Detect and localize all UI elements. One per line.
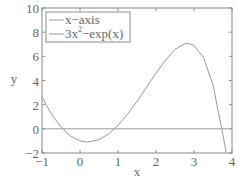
clipped-caption — [0, 182, 240, 188]
legend-label-x-axis: x−axis — [65, 12, 100, 27]
y-tick-label: −2 — [25, 146, 39, 161]
y-tick-label: 2 — [33, 98, 40, 113]
legend-label-function: 3x2−exp(x) — [65, 25, 123, 41]
x-tick-label: 4 — [229, 154, 236, 169]
y-tick-label: 0 — [33, 122, 40, 137]
y-tick-label: 10 — [26, 1, 39, 16]
y-tick-label: 4 — [33, 74, 40, 89]
legend: x−axis 3x2−exp(x) — [46, 12, 130, 42]
x-tick-label: 2 — [153, 154, 160, 169]
chart: −101234 −20246810 x y x−axis 3x2−exp(x) — [0, 0, 240, 188]
legend-function-rest: −exp(x) — [82, 26, 123, 41]
x-axis-label: x — [134, 164, 141, 179]
x-tick-label: 3 — [191, 154, 198, 169]
y-tick-label: 6 — [33, 49, 40, 64]
y-axis-label: y — [11, 71, 18, 86]
legend-function-base: 3x — [65, 26, 79, 41]
y-tick-label: 8 — [33, 25, 40, 40]
x-tick-label: 1 — [115, 154, 122, 169]
x-tick-label: 0 — [77, 154, 84, 169]
